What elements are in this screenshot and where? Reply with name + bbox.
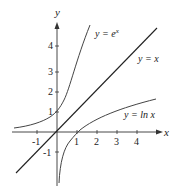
y-tick-label: 3	[48, 66, 53, 77]
y-tick-label: -1	[43, 147, 51, 158]
curve-identity	[16, 28, 157, 173]
y-axis-label: y	[54, 6, 60, 18]
diagram: -1 1 2 3 4 -1 1 2 3 4 y x y = ex y = x y…	[0, 0, 181, 186]
x-tick-label: 2	[94, 136, 99, 147]
plot: -1 1 2 3 4 -1 1 2 3 4 y x y = ex y = x y…	[0, 0, 181, 186]
x-tick-label: 3	[114, 136, 119, 147]
curve-label-identity: y = x	[137, 53, 159, 64]
y-tick-label: 2	[48, 86, 53, 97]
x-tick-label: 1	[74, 136, 79, 147]
y-tick-label: 4	[48, 40, 53, 51]
x-axis-arrow-icon	[156, 130, 163, 135]
x-axis-label: x	[163, 126, 169, 138]
y-axis-arrow-icon	[55, 22, 60, 29]
curve-label-exp: y = ex	[94, 27, 120, 39]
x-tick-label: 4	[134, 136, 139, 147]
curve-label-ln: y = ln x	[123, 109, 155, 120]
x-tick-label: -1	[32, 136, 40, 147]
